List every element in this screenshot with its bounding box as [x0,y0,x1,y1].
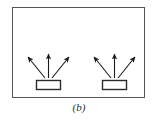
figure-caption-label: (b) [73,101,86,114]
left-emitter-box [37,81,61,90]
figure-container: (b) [0,0,158,120]
right-emitter-box [103,81,127,90]
figure-canvas: (b) [0,0,158,120]
